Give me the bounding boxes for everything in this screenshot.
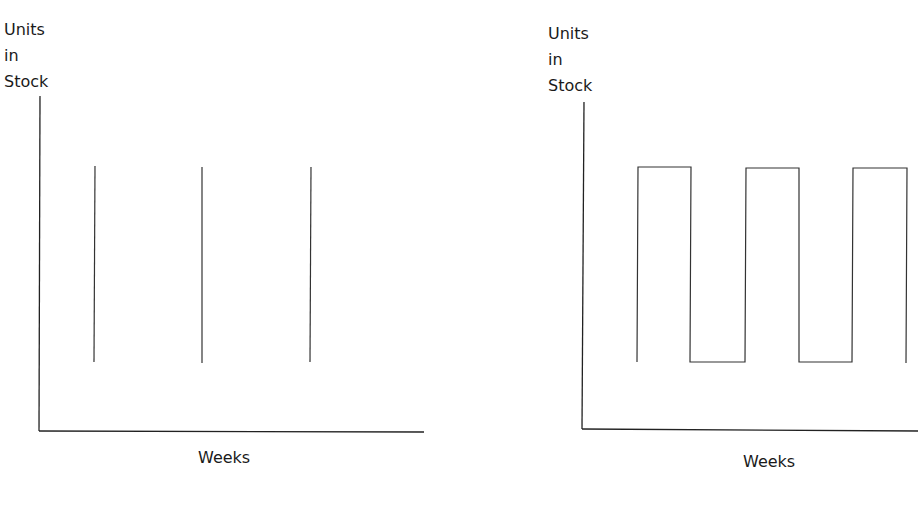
right-axes	[582, 102, 918, 431]
left-x-axis	[39, 431, 424, 432]
square-wave-line	[637, 167, 907, 363]
left-axes	[39, 96, 424, 432]
left-data-lines	[94, 166, 311, 363]
right-y-axis	[582, 102, 584, 429]
charts-canvas	[0, 0, 920, 505]
spike-line	[94, 166, 95, 362]
right-x-axis	[582, 429, 918, 431]
left-y-axis	[39, 96, 40, 431]
spike-line	[310, 167, 311, 362]
